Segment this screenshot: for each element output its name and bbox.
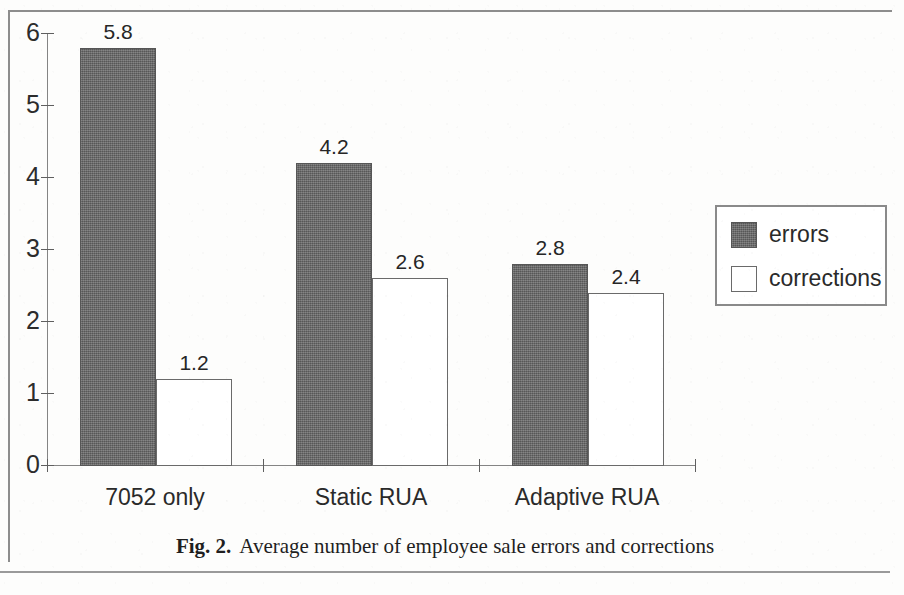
bar-errors-static-rua bbox=[296, 163, 372, 466]
y-tick-label-1: 1 bbox=[12, 378, 40, 407]
y-tick-label-5: 5 bbox=[12, 90, 40, 119]
y-tick-label-4: 4 bbox=[12, 162, 40, 191]
legend-entry-corrections: corrections bbox=[731, 265, 881, 292]
y-tick-mark-6 bbox=[41, 33, 54, 34]
bar-label-errors-adaptive-rua: 2.8 bbox=[512, 236, 588, 260]
bar-label-errors-static-rua: 4.2 bbox=[296, 135, 372, 159]
category-label-static-rua: Static RUA bbox=[263, 484, 479, 511]
y-tick-label-6: 6 bbox=[12, 18, 40, 47]
bar-label-errors-7052-only: 5.8 bbox=[80, 20, 156, 44]
legend-swatch-corrections-icon bbox=[731, 266, 757, 292]
legend-entry-errors: errors bbox=[731, 221, 829, 248]
bar-label-corrections-7052-only: 1.2 bbox=[156, 351, 232, 375]
bar-chart: 0 1 2 3 4 5 6 5.8 1.2 7052 only 4.2 2.6 … bbox=[0, 0, 904, 595]
y-tick-label-0: 0 bbox=[12, 450, 40, 479]
y-tick-mark-2 bbox=[41, 321, 54, 322]
y-tick-label-2: 2 bbox=[12, 306, 40, 335]
x-tick-mark-0 bbox=[47, 459, 48, 472]
frame-bottom-rule bbox=[0, 571, 890, 573]
y-tick-mark-3 bbox=[41, 249, 54, 250]
category-label-adaptive-rua: Adaptive RUA bbox=[479, 484, 695, 511]
bar-label-corrections-adaptive-rua: 2.4 bbox=[588, 265, 664, 289]
bar-corrections-static-rua bbox=[372, 278, 448, 466]
bar-label-corrections-static-rua: 2.6 bbox=[372, 250, 448, 274]
category-label-7052-only: 7052 only bbox=[47, 484, 263, 511]
y-tick-label-3: 3 bbox=[12, 234, 40, 263]
bar-errors-7052-only bbox=[80, 48, 156, 466]
chart-legend: errors corrections bbox=[715, 205, 887, 306]
y-tick-mark-1 bbox=[41, 393, 54, 394]
figure-caption: Fig. 2.Average number of employee sale e… bbox=[0, 534, 890, 559]
x-tick-mark-3 bbox=[695, 459, 696, 472]
figure-caption-label: Fig. 2. bbox=[176, 534, 231, 558]
y-tick-mark-5 bbox=[41, 105, 54, 106]
frame-top-rule bbox=[8, 10, 892, 12]
bar-corrections-adaptive-rua bbox=[588, 293, 664, 466]
figure-caption-text: Average number of employee sale errors a… bbox=[239, 534, 714, 558]
y-tick-mark-4 bbox=[41, 177, 54, 178]
x-tick-mark-2 bbox=[479, 459, 480, 472]
bar-errors-adaptive-rua bbox=[512, 264, 588, 466]
figure-page: 0 1 2 3 4 5 6 5.8 1.2 7052 only 4.2 2.6 … bbox=[0, 0, 904, 595]
frame-left-rule bbox=[8, 10, 10, 562]
legend-swatch-errors-icon bbox=[731, 222, 757, 248]
legend-label-errors: errors bbox=[769, 221, 829, 248]
legend-label-corrections: corrections bbox=[769, 265, 881, 292]
bar-corrections-7052-only bbox=[156, 379, 232, 466]
x-tick-mark-1 bbox=[263, 459, 264, 472]
